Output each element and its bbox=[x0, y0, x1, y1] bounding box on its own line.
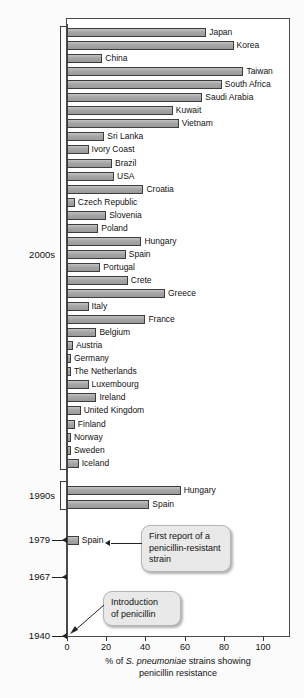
bar-row: Poland bbox=[67, 224, 128, 233]
bar-row: South Africa bbox=[67, 80, 271, 89]
bar-label: The Netherlands bbox=[74, 367, 137, 376]
bar-row: Croatia bbox=[67, 185, 174, 194]
bar-row: Norway bbox=[67, 433, 103, 442]
callout-introduction: Introduction of penicillin bbox=[103, 591, 181, 626]
x-tick-80 bbox=[224, 637, 225, 641]
bar-row: Greece bbox=[67, 289, 196, 298]
bar-row: Germany bbox=[67, 354, 109, 363]
bar-label: Kuwait bbox=[176, 106, 202, 115]
bar-row: Japan bbox=[67, 28, 232, 37]
bar-row: China bbox=[67, 54, 127, 63]
bar-row: Portugal bbox=[67, 263, 135, 272]
bar-label: Ireland bbox=[99, 393, 125, 402]
bar bbox=[67, 433, 71, 442]
bar-row: Sweden bbox=[67, 446, 105, 455]
bar-label: Crete bbox=[131, 276, 152, 285]
x-tick-label-20: 20 bbox=[101, 642, 111, 652]
bar-row: Czech Republic bbox=[67, 198, 137, 207]
bar bbox=[67, 106, 173, 115]
bar-row: Slovenia bbox=[67, 211, 142, 220]
bar bbox=[67, 80, 222, 89]
bar-label: Norway bbox=[74, 433, 103, 442]
leader-arrow-first-report bbox=[105, 540, 110, 546]
bar bbox=[67, 54, 102, 63]
x-tick-100 bbox=[263, 637, 264, 641]
bar-label: Japan bbox=[209, 28, 232, 37]
bar-label: Ivory Coast bbox=[92, 145, 135, 154]
bar-row: Iceland bbox=[67, 459, 109, 468]
bar-label: Belgium bbox=[99, 328, 130, 337]
bar-row: Ivory Coast bbox=[67, 145, 135, 154]
bar-label: Hungary bbox=[184, 486, 216, 495]
x-tick-60 bbox=[185, 637, 186, 641]
bar-label: Iceland bbox=[82, 459, 109, 468]
bar-label: United Kingdom bbox=[84, 406, 144, 415]
bar-row: Hungary bbox=[67, 237, 177, 246]
bar bbox=[67, 536, 79, 545]
bar-label: Spain bbox=[82, 536, 104, 545]
bar bbox=[67, 341, 73, 350]
bar-row: Spain bbox=[67, 500, 174, 509]
x-tick-20 bbox=[106, 637, 107, 641]
bar bbox=[67, 500, 149, 509]
bar-label: Luxembourg bbox=[92, 380, 139, 389]
bar-row: Italy bbox=[67, 302, 107, 311]
bar-row: Crete bbox=[67, 276, 152, 285]
bar bbox=[67, 315, 145, 324]
bar bbox=[67, 224, 98, 233]
bar-row: Sri Lanka bbox=[67, 132, 143, 141]
bar-row: Finland bbox=[67, 420, 106, 429]
bar bbox=[67, 393, 96, 402]
bar bbox=[67, 276, 128, 285]
bar-row: Austria bbox=[67, 341, 102, 350]
bar-label: France bbox=[148, 315, 174, 324]
x-axis: 0 20 40 60 80 100 bbox=[67, 637, 263, 638]
bar-label: Finland bbox=[78, 420, 106, 429]
caption-post: strains showing bbox=[186, 656, 251, 666]
bar bbox=[67, 159, 112, 168]
bar bbox=[67, 145, 89, 154]
bar-label: Korea bbox=[237, 41, 260, 50]
bar bbox=[67, 198, 75, 207]
bar-row: France bbox=[67, 315, 175, 324]
x-tick-label-0: 0 bbox=[64, 642, 69, 652]
x-tick-label-100: 100 bbox=[255, 642, 270, 652]
bar bbox=[67, 67, 243, 76]
bar-label: Spain bbox=[129, 250, 151, 259]
bar bbox=[67, 446, 71, 455]
bar-row: Taiwan bbox=[67, 67, 273, 76]
caption-species: S. pneumoniae bbox=[126, 656, 187, 666]
bar bbox=[67, 367, 71, 376]
bar-row: USA bbox=[67, 172, 135, 181]
bar-row: Ireland bbox=[67, 393, 125, 402]
bar-label: Sri Lanka bbox=[107, 132, 143, 141]
bar-row: Brazil bbox=[67, 159, 136, 168]
bar-row: Spain bbox=[67, 250, 151, 259]
bar-row: United Kingdom bbox=[67, 406, 144, 415]
first-report-line1: First report of a bbox=[149, 531, 223, 543]
caption-line2: penicillin resistance bbox=[66, 667, 290, 679]
bar-row: Belgium bbox=[67, 328, 130, 337]
bar-row: Hungary bbox=[67, 486, 216, 495]
x-axis-caption: % of S. pneumoniae strains showing penic… bbox=[66, 655, 290, 679]
bar-row: Kuwait bbox=[67, 106, 201, 115]
bar bbox=[67, 119, 179, 128]
introduction-line1: Introduction bbox=[111, 597, 173, 609]
bar bbox=[67, 237, 141, 246]
bar-label: South Africa bbox=[225, 80, 271, 89]
bar bbox=[67, 354, 71, 363]
x-tick-40 bbox=[145, 637, 146, 641]
x-tick-label-40: 40 bbox=[140, 642, 150, 652]
bar-label: Poland bbox=[101, 224, 127, 233]
bar-row: Korea bbox=[67, 41, 259, 50]
bar bbox=[67, 250, 126, 259]
bar-label: Czech Republic bbox=[78, 198, 138, 207]
x-tick-label-60: 60 bbox=[180, 642, 190, 652]
bar-row: Luxembourg bbox=[67, 380, 139, 389]
bar bbox=[67, 263, 100, 272]
leader-introduction bbox=[70, 603, 106, 634]
leader-first-report bbox=[111, 543, 142, 544]
bar bbox=[67, 380, 89, 389]
bar bbox=[67, 302, 89, 311]
bar bbox=[67, 459, 79, 468]
